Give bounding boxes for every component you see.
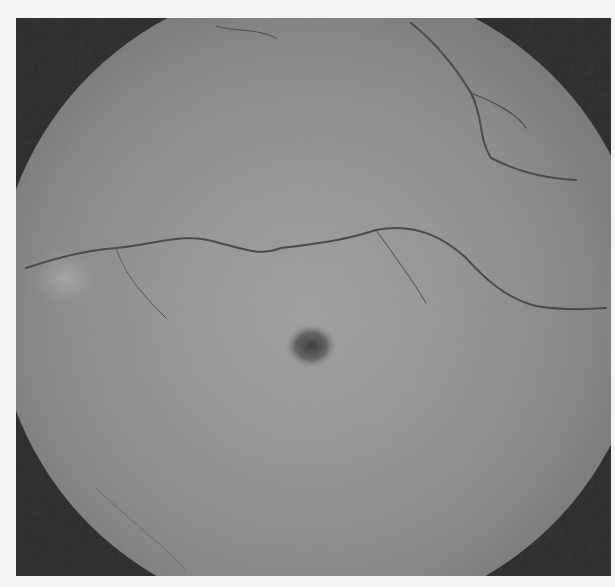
fundus-photo xyxy=(16,18,611,576)
vessel-overlay xyxy=(16,18,611,576)
